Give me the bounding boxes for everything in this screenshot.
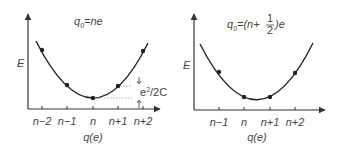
svg-text:n+1: n+1 [261,116,280,128]
left-panel: e2/2C q0=ne E n−2 n−1 n n+1 n+2 q(e) [17,14,167,143]
svg-text:n: n [241,116,247,128]
right-title-suffix: )e [273,18,285,30]
svg-text:n−1: n−1 [210,116,229,128]
svg-text:n+2: n+2 [134,115,153,127]
right-x-label: q(e) [247,131,267,143]
svg-text:n−2: n−2 [33,115,52,127]
right-title: q0=(n+ [227,18,260,32]
right-tick-labels: n−1 n n+1 n+2 [210,116,305,128]
charging-energy-diagram: e2/2C q0=ne E n−2 n−1 n n+1 n+2 q(e) [0,0,340,155]
left-tick-labels: n−2 n−1 n n+1 n+2 [33,115,153,127]
svg-text:n−1: n−1 [58,115,77,127]
energy-gap-guides [95,86,132,98]
left-title: q0=ne [74,15,103,29]
left-x-label: q(e) [83,131,103,143]
right-title-fraction-den: 2 [267,24,273,36]
right-panel: q0=(n+ 1 2 )e E n−1 n n+1 n+2 q(e) [183,12,325,143]
svg-text:n+1: n+1 [109,115,128,127]
svg-text:n: n [90,115,96,127]
energy-gap-label: e2/2C [140,86,167,98]
right-title-fraction-num: 1 [267,12,273,24]
left-y-label: E [17,57,25,69]
left-parabola-curve [36,41,148,98]
svg-text:n+2: n+2 [286,116,305,128]
right-y-label: E [183,59,191,71]
